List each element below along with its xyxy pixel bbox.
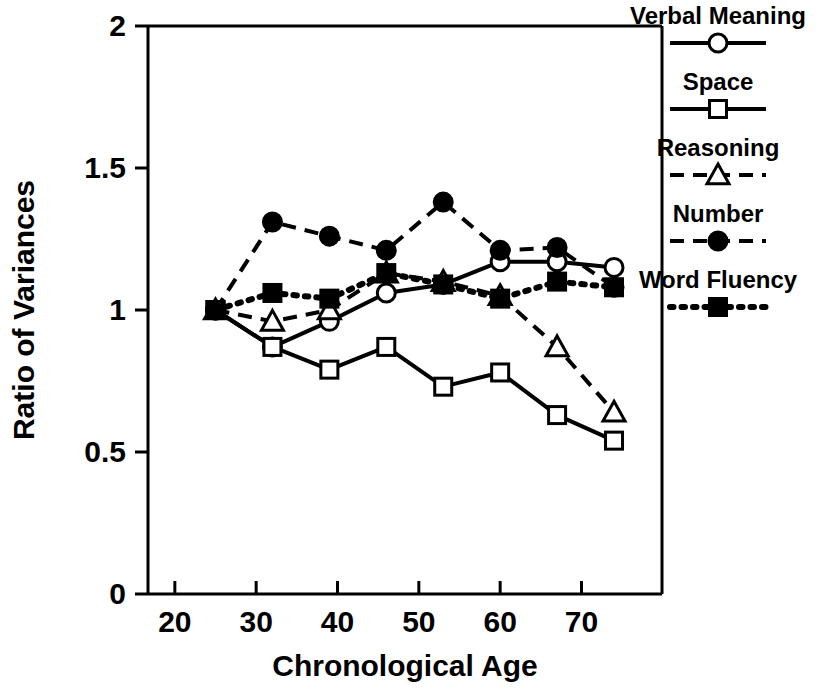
data-point-open-square (321, 361, 338, 378)
data-point-open-circle (709, 34, 727, 52)
y-axis-title: Ratio of Variances (7, 180, 40, 440)
data-point-filled-square (207, 301, 225, 319)
data-point-filled-square (709, 298, 727, 316)
data-point-filled-circle (434, 193, 453, 212)
legend-label-number: Number (673, 200, 764, 227)
data-point-filled-square (434, 275, 452, 293)
y-tick-label: 1 (109, 293, 126, 326)
data-point-open-square (549, 407, 566, 424)
data-point-filled-square (377, 264, 395, 282)
data-point-filled-circle (377, 241, 396, 260)
x-tick-label: 60 (483, 605, 516, 638)
data-point-filled-circle (263, 212, 282, 231)
data-point-open-square (606, 432, 623, 449)
data-point-filled-circle (709, 232, 728, 251)
data-point-filled-circle (548, 238, 567, 257)
y-tick-label: 2 (109, 9, 126, 42)
variance-ratio-line-chart: 00.511.52 203040506070 Chronological Age… (0, 0, 827, 696)
data-point-filled-square (263, 284, 281, 302)
data-point-open-square (710, 101, 727, 118)
x-tick-label: 30 (239, 605, 272, 638)
data-point-open-square (378, 338, 395, 355)
x-tick-label: 50 (402, 605, 435, 638)
data-point-filled-square (605, 278, 623, 296)
x-tick-label: 70 (565, 605, 598, 638)
data-point-open-circle (605, 258, 623, 276)
x-tick-label: 20 (158, 605, 191, 638)
y-tick-label: 0 (109, 577, 126, 610)
data-point-open-square (492, 364, 509, 381)
y-tick-label: 0.5 (84, 435, 126, 468)
data-point-open-square (264, 338, 281, 355)
legend-label-word-fluency: Word Fluency (639, 266, 798, 293)
data-point-filled-circle (320, 227, 339, 246)
data-point-filled-square (548, 273, 566, 291)
data-point-filled-square (491, 290, 509, 308)
y-tick-label: 1.5 (84, 151, 126, 184)
legend-label-verbal-meaning: Verbal Meaning (630, 2, 806, 29)
data-point-open-circle (377, 284, 395, 302)
data-point-filled-circle (491, 241, 510, 260)
data-point-filled-square (320, 290, 338, 308)
x-tick-label: 40 (321, 605, 354, 638)
legend-label-space: Space (683, 68, 754, 95)
legend-label-reasoning: Reasoning (657, 134, 780, 161)
x-axis-title: Chronological Age (272, 649, 538, 682)
data-point-open-square (435, 378, 452, 395)
